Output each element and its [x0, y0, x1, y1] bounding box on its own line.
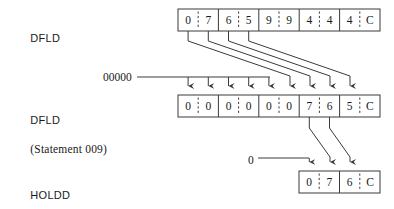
diagram-vectors: 0 7 6 5 9 9 4 4 4 C [0, 0, 394, 209]
cell-bot-1: 7 [327, 176, 333, 188]
cell-mid-5: 0 [286, 100, 292, 112]
cell-mid-0: 0 [185, 100, 191, 112]
cell-bot-2: 6 [347, 176, 353, 188]
cell-top-6: 4 [306, 14, 312, 26]
cell-mid-9: C [366, 100, 374, 112]
cell-bot-0: 0 [306, 176, 312, 188]
fill-zero-bottom-bus [258, 158, 309, 162]
cell-mid-6: 7 [306, 100, 312, 112]
cell-mid-7: 6 [327, 100, 333, 112]
cell-mid-1: 0 [205, 100, 211, 112]
row-boxes-dfld-top: 0 7 6 5 9 9 4 4 4 C [178, 9, 380, 31]
cell-top-9: C [366, 14, 374, 26]
cell-top-0: 0 [185, 14, 191, 26]
cell-mid-4: 0 [266, 100, 272, 112]
cell-mid-3: 0 [246, 100, 252, 112]
cell-top-8: 4 [347, 14, 353, 26]
cell-bot-3: C [366, 176, 374, 188]
cell-top-5: 9 [286, 14, 292, 26]
cell-top-4: 9 [266, 14, 272, 26]
cell-top-3: 5 [246, 14, 252, 26]
fill-zeros-middle-bus [137, 77, 270, 86]
cell-top-7: 4 [327, 14, 333, 26]
row-boxes-dfld-stmt009: 0 0 0 0 0 0 7 6 5 C [178, 95, 380, 117]
cell-top-1: 7 [205, 14, 211, 26]
connectors-middle-to-bottom [309, 117, 350, 162]
cell-mid-2: 0 [226, 100, 232, 112]
cell-mid-8: 5 [347, 100, 353, 112]
row-boxes-holdd-stmt010: 0 7 6 C [299, 171, 380, 193]
cell-top-2: 6 [226, 14, 232, 26]
diagram-canvas: DFLD DFLD (Statement 009) HOLDD (Stateme… [0, 0, 394, 209]
